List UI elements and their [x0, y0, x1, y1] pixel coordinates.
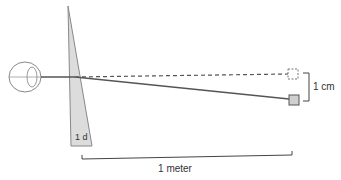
prism — [68, 6, 92, 146]
apparent-target — [288, 69, 298, 79]
prism-diopter-diagram: 1 d 1 cm 1 meter — [0, 0, 341, 180]
displacement-bracket — [303, 73, 309, 101]
displacement-label: 1 cm — [313, 81, 335, 92]
distance-label: 1 meter — [158, 163, 193, 174]
deviated-ray — [75, 77, 289, 99]
eye-icon — [9, 62, 41, 92]
prism-label: 1 d — [75, 132, 88, 142]
distance-bracket — [82, 151, 292, 159]
real-target — [289, 95, 299, 105]
apparent-ray — [75, 74, 288, 77]
